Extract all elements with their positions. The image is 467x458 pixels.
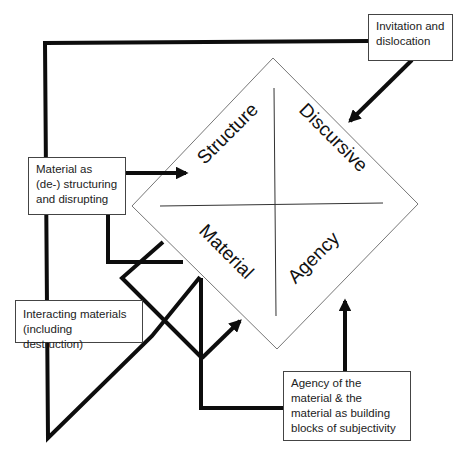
box-invitation-text: Invitation and dislocation — [376, 20, 444, 47]
box-destructuring-text: Material as (de-) structuring and disrup… — [36, 163, 117, 205]
invitation-to-discursive-arrow — [350, 60, 412, 121]
box-invitation-dislocation: Invitation and dislocation — [368, 14, 453, 61]
box-interacting-materials: Interacting materials (including destruc… — [15, 300, 143, 343]
box-agency-subjectivity: Agency of the material & the material as… — [283, 371, 411, 441]
subjectivity-to-material-arrow — [202, 321, 240, 358]
box-agency-text: Agency of the material & the material as… — [291, 377, 396, 434]
box-material-destructuring: Material as (de-) structuring and disrup… — [28, 157, 126, 215]
